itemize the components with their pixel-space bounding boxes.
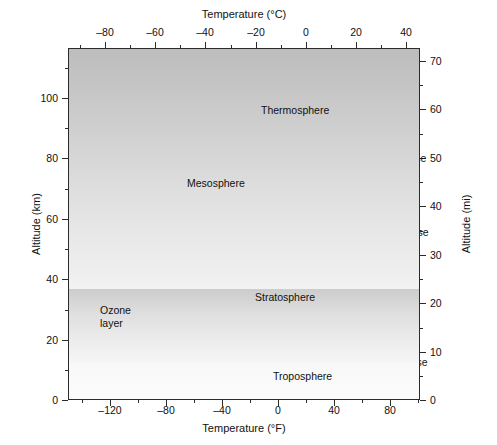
right-tick-label: 0 xyxy=(430,394,436,406)
right-tick-label: 50 xyxy=(430,152,442,164)
thermosphere-label: Thermosphere xyxy=(261,104,329,116)
left-tick-label: 0 xyxy=(22,394,58,406)
tick-right-major xyxy=(420,400,426,401)
right-tick-label: 20 xyxy=(430,297,442,309)
tick-right-major xyxy=(420,206,426,207)
tick-right-major xyxy=(420,61,426,62)
tick-bottom-minor xyxy=(306,400,307,403)
tick-bottom-minor xyxy=(194,400,195,403)
tick-right-minor xyxy=(420,328,423,329)
top-tick-label: 20 xyxy=(350,26,362,38)
tick-right-major xyxy=(420,352,426,353)
tick-right-minor xyxy=(420,134,423,135)
top-tick-label: 0 xyxy=(303,26,309,38)
stratosphere-label: Stratosphere xyxy=(255,291,315,303)
tick-bottom-minor xyxy=(138,400,139,403)
troposphere-label: Troposphere xyxy=(273,370,332,382)
top-axis-title: Temperature (°C) xyxy=(202,8,286,20)
tick-right-minor xyxy=(420,85,423,86)
tick-right-minor xyxy=(420,376,423,377)
right-axis-title: Altitude (mi) xyxy=(460,164,472,284)
left-tick-label: 100 xyxy=(22,92,58,104)
tick-left-major xyxy=(62,400,68,401)
top-tick-label: –40 xyxy=(196,26,214,38)
bottom-tick-label: –80 xyxy=(157,404,175,416)
left-tick-label: 40 xyxy=(22,273,58,285)
tick-right-minor xyxy=(420,182,423,183)
right-tick-label: 10 xyxy=(430,346,442,358)
bottom-tick-label: 80 xyxy=(384,404,396,416)
ozone-layer-label-line1: Ozone xyxy=(100,304,131,317)
right-tick-label: 30 xyxy=(430,249,442,261)
tick-right-major xyxy=(420,109,426,110)
tick-bottom-minor xyxy=(82,400,83,403)
tick-right-major xyxy=(420,255,426,256)
tick-bottom-minor xyxy=(362,400,363,403)
bottom-tick-label: 40 xyxy=(328,404,340,416)
ozone-layer-label-line2: layer xyxy=(100,317,131,330)
bottom-tick-label: –120 xyxy=(98,404,121,416)
top-tick-label: –60 xyxy=(146,26,164,38)
ozone-layer-label: Ozone layer xyxy=(100,304,131,330)
bottom-tick-label: 0 xyxy=(275,404,281,416)
top-tick-label: 40 xyxy=(400,26,412,38)
top-tick-label: –20 xyxy=(247,26,265,38)
right-tick-label: 40 xyxy=(430,200,442,212)
bottom-tick-label: –40 xyxy=(213,404,231,416)
mesosphere-label: Mesosphere xyxy=(187,177,245,189)
top-tick-label: –80 xyxy=(96,26,114,38)
plot-area: Thermosphere Mesosphere Stratosphere Tro… xyxy=(68,48,420,400)
left-tick-label: 20 xyxy=(22,334,58,346)
right-tick-label: 60 xyxy=(430,103,442,115)
right-tick-label: 70 xyxy=(430,55,442,67)
atmosphere-temperature-profile-figure: Temperature (°C) Temperature (°F) Altitu… xyxy=(0,0,497,445)
tick-bottom-minor xyxy=(418,400,419,403)
tick-right-major xyxy=(420,303,426,304)
left-tick-label: 80 xyxy=(22,152,58,164)
bottom-axis-title: Temperature (°F) xyxy=(202,422,285,434)
left-tick-label: 60 xyxy=(22,213,58,225)
tick-right-minor xyxy=(420,279,423,280)
tick-bottom-minor xyxy=(250,400,251,403)
